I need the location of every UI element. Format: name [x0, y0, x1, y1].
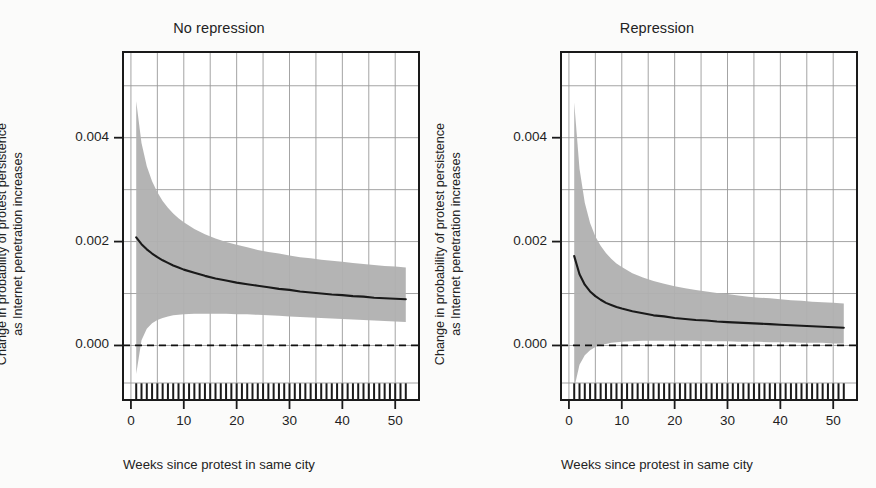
x-tick-label: 50 — [808, 413, 858, 428]
x-tick-label: 40 — [755, 413, 805, 428]
x-tick-label: 0 — [544, 413, 594, 428]
x-tick-label: 10 — [159, 413, 209, 428]
x-axis-label: Weeks since protest in same city — [438, 457, 876, 472]
x-tick-label: 40 — [317, 413, 367, 428]
panel-repression: Repression Change in probability of prot… — [438, 0, 876, 488]
x-tick-label: 10 — [597, 413, 647, 428]
panel-no-repression: No repression Change in probability of p… — [0, 0, 438, 488]
x-tick-label: 50 — [370, 413, 420, 428]
y-tick-label: 0.000 — [513, 336, 547, 351]
y-tick-label: 0.002 — [75, 233, 109, 248]
y-tick-label: 0.004 — [513, 129, 547, 144]
x-tick-label: 20 — [212, 413, 262, 428]
x-tick-label: 30 — [703, 413, 753, 428]
y-tick-label: 0.004 — [75, 129, 109, 144]
x-tick-label: 30 — [265, 413, 315, 428]
x-tick-label: 20 — [650, 413, 700, 428]
figure-canvas: No repression Change in probability of p… — [0, 0, 876, 488]
y-tick-label: 0.000 — [75, 336, 109, 351]
y-tick-label: 0.002 — [513, 233, 547, 248]
x-axis-label: Weeks since protest in same city — [0, 457, 438, 472]
x-tick-label: 0 — [106, 413, 156, 428]
